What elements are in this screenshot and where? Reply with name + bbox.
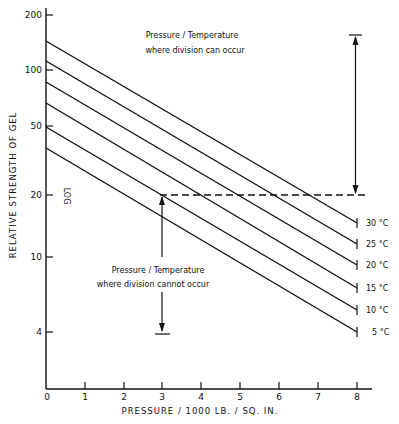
x-tick-label: 6 — [276, 392, 282, 402]
legend-5c: 5 °C — [372, 328, 390, 337]
legend-30c: 30 °C — [366, 219, 389, 228]
upper-annotation-line1: Pressure / Temperature — [146, 31, 239, 40]
lower-arrows — [155, 196, 170, 334]
legend-10c: 10 °C — [366, 306, 389, 315]
y-axis-title: RELATIVE STRENGTH OF GEL — [8, 112, 18, 259]
x-tick-label: 0 — [44, 392, 50, 402]
y-tick-label: 4 — [36, 327, 42, 337]
lower-annotation-line1: Pressure / Temperature — [112, 266, 205, 275]
x-axis-title: PRESSURE / 1000 LB. / SQ. IN. — [122, 406, 279, 416]
series-labels: 30 °C 25 °C 20 °C 15 °C 10 °C 5 °C — [366, 219, 390, 337]
y-tick-label: 20 — [31, 190, 43, 200]
y-tick-label: 100 — [25, 65, 42, 75]
series-5c — [46, 148, 357, 332]
x-tick-label: 5 — [237, 392, 243, 402]
upper-double-arrow — [349, 35, 362, 194]
x-tick-labels: 0 1 2 3 4 5 6 7 8 — [44, 392, 360, 402]
x-tick-label: 2 — [121, 392, 127, 402]
x-tick-label: 7 — [315, 392, 321, 402]
x-ticks — [85, 382, 357, 389]
log-scale-label: LOG — [62, 188, 71, 205]
legend-20c: 20 °C — [366, 261, 389, 270]
y-tick-label: 50 — [31, 121, 43, 131]
lower-annotation-line2: where division cannot occur — [97, 280, 210, 289]
legend-25c: 25 °C — [366, 240, 389, 249]
x-tick-label: 8 — [354, 392, 360, 402]
legend-15c: 15 °C — [366, 284, 389, 293]
x-tick-label: 4 — [198, 392, 204, 402]
x-tick-label: 3 — [159, 392, 165, 402]
series-25c — [46, 61, 357, 244]
y-tick-label: 200 — [25, 10, 42, 20]
y-tick-label: 10 — [31, 252, 43, 262]
chart: 200 100 50 20 10 4 0 1 2 3 4 5 6 7 8 REL… — [0, 0, 399, 424]
y-tick-labels: 200 100 50 20 10 4 — [25, 10, 42, 337]
upper-annotation-line2: where division can occur — [145, 46, 245, 55]
x-tick-label: 1 — [82, 392, 88, 402]
series-20c — [46, 82, 357, 265]
